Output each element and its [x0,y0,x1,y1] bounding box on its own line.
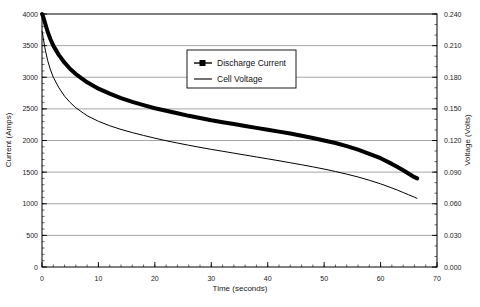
y-tick-label: 1000 [22,200,38,207]
y2-tick-label: 0.000 [444,264,462,271]
legend-label-discharge-current: Discharge Current [217,58,287,68]
y-tick-label: 4000 [22,11,38,18]
chart-legend: Discharge Current Cell Voltage [187,50,296,88]
x-tick-label: 30 [207,275,215,282]
legend-label-cell-voltage: Cell Voltage [217,74,263,84]
x-tick-label: 0 [40,275,44,282]
y2-tick-label: 0.150 [444,105,462,112]
y-tick-label: 1500 [22,169,38,176]
legend-marker-square-icon [200,60,206,66]
y2-axis-title: Voltage (Volts) [463,114,472,166]
y-axis-minor-ticks [42,14,45,267]
y2-tick-label: 0.090 [444,169,462,176]
discharge-current-cell-voltage-chart: 010203040506070 050010001500200025003000… [0,0,480,307]
y-axis-title: Current (Amps) [4,112,13,167]
y2-tick-label: 0.210 [444,42,462,49]
y2-tick-label: 0.120 [444,137,462,144]
y-tick-label: 2500 [22,105,38,112]
x-tick-label: 40 [264,275,272,282]
y-tick-label: 3000 [22,74,38,81]
y-tick-label: 0 [34,264,38,271]
x-tick-label: 50 [320,275,328,282]
x-axis-tick-labels: 010203040506070 [40,275,441,282]
x-axis-title: Time (seconds) [213,284,268,293]
y-tick-label: 500 [26,232,38,239]
figure-caption-partial [22,302,442,307]
y2-axis-tick-labels: 0.0000.0300.0600.0900.1200.1500.1800.210… [444,11,462,271]
x-tick-label: 10 [95,275,103,282]
figure-container: 010203040506070 050010001500200025003000… [0,0,480,307]
x-tick-label: 60 [377,275,385,282]
y-tick-label: 2000 [22,137,38,144]
y-axis-tick-labels: 05001000150020002500300035004000 [22,11,38,271]
y2-tick-label: 0.180 [444,74,462,81]
y2-tick-label: 0.060 [444,200,462,207]
y2-tick-label: 0.030 [444,232,462,239]
x-tick-label: 20 [151,275,159,282]
y-tick-label: 3500 [22,42,38,49]
y2-tick-label: 0.240 [444,11,462,18]
x-tick-label: 70 [433,275,441,282]
